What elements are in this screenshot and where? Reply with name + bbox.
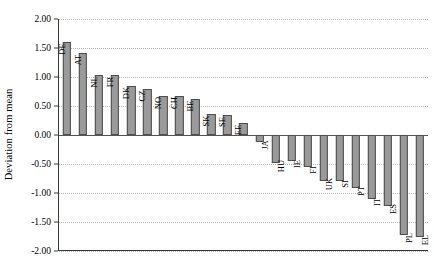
deviation-from-mean-bar-chart: Deviation from mean 2.001.501.000.500.00…	[0, 0, 434, 269]
y-tick-mark	[54, 77, 58, 78]
y-tick-label: -1.50	[31, 217, 51, 227]
bar-group[interactable]: EE	[235, 19, 251, 251]
bars-layer: DEATNLFRDKCZNOCHBESKSEEEJAHUIEFIUKSIPTIT…	[59, 19, 428, 251]
bar-category-label: CH	[169, 97, 179, 109]
y-axis-title: Deviation from mean	[0, 0, 18, 269]
y-tick-mark	[54, 135, 58, 136]
bar[interactable]	[352, 135, 360, 188]
bar-group[interactable]: BE	[187, 19, 203, 251]
y-tick-mark	[54, 222, 58, 223]
bar-group[interactable]: SI	[332, 19, 348, 251]
bar-category-label: CZ	[137, 90, 147, 101]
bar-group[interactable]: AT	[75, 19, 91, 251]
y-tick-mark	[54, 48, 58, 49]
y-tick-mark	[54, 193, 58, 194]
bar-group[interactable]: SK	[203, 19, 219, 251]
bar-group[interactable]: FR	[107, 19, 123, 251]
bar[interactable]	[416, 135, 424, 237]
bar[interactable]	[303, 135, 311, 167]
y-tick-label: -2.00	[31, 246, 51, 256]
bar[interactable]	[400, 135, 408, 235]
bar-group[interactable]: UK	[316, 19, 332, 251]
bar-group[interactable]: IT	[364, 19, 380, 251]
y-tick-label: 0.00	[34, 130, 51, 140]
y-tick-mark	[54, 19, 58, 20]
bar[interactable]	[63, 42, 71, 135]
bar-category-label: SE	[217, 117, 227, 127]
bar-category-label: BE	[185, 101, 195, 112]
bar-category-label: EL	[420, 234, 430, 244]
bar-group[interactable]: CZ	[139, 19, 155, 251]
y-tick-label: -0.50	[31, 159, 51, 169]
bar[interactable]	[320, 135, 328, 181]
bar-category-label: FR	[105, 76, 115, 86]
y-tick-mark	[54, 251, 58, 252]
gridline	[59, 251, 428, 252]
bar[interactable]	[384, 135, 392, 206]
bar[interactable]	[336, 135, 344, 181]
bar-group[interactable]: PL	[396, 19, 412, 251]
bar[interactable]	[368, 135, 376, 199]
bar[interactable]	[271, 135, 279, 163]
bar-group[interactable]: NO	[155, 19, 171, 251]
bar-group[interactable]: PT	[348, 19, 364, 251]
bar-group[interactable]: EL	[412, 19, 428, 251]
bar-group[interactable]: JA	[252, 19, 268, 251]
bar-category-label: SK	[201, 115, 211, 126]
bar[interactable]	[287, 135, 295, 161]
plot-area: DEATNLFRDKCZNOCHBESKSEEEJAHUIEFIUKSIPTIT…	[58, 19, 428, 251]
bar-category-label: AT	[73, 54, 83, 64]
bar-group[interactable]: NL	[91, 19, 107, 251]
bar-category-label: DE	[57, 44, 67, 55]
bar-group[interactable]: DK	[123, 19, 139, 251]
bar-category-label: NO	[153, 96, 163, 108]
y-tick-label: 1.00	[34, 72, 51, 82]
y-axis-title-text: Deviation from mean	[4, 89, 15, 181]
y-tick-label: 1.50	[34, 43, 51, 53]
y-tick-label: 2.00	[34, 14, 51, 24]
bar-group[interactable]: HU	[268, 19, 284, 251]
y-tick-label: -1.00	[31, 188, 51, 198]
bar-group[interactable]: CH	[171, 19, 187, 251]
bar-group[interactable]: ES	[380, 19, 396, 251]
bar-group[interactable]: FI	[300, 19, 316, 251]
y-axis-tick-labels: 2.001.501.000.500.00-0.50-1.00-1.50-2.00	[18, 0, 54, 269]
y-tick-mark	[54, 164, 58, 165]
bar-category-label: DK	[121, 87, 131, 99]
y-tick-label: 0.50	[34, 101, 51, 111]
bar-category-label: EE	[233, 125, 243, 135]
bar-group[interactable]: IE	[284, 19, 300, 251]
bar-group[interactable]: DE	[59, 19, 75, 251]
y-tick-mark	[54, 106, 58, 107]
bar-category-label: NL	[89, 76, 99, 87]
